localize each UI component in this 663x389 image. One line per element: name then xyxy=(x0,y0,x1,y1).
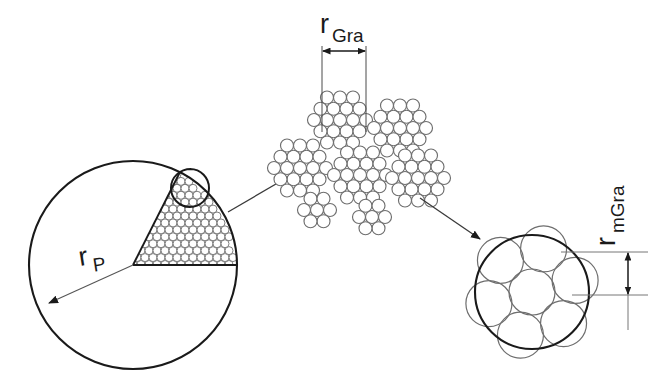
packing-circle xyxy=(129,177,137,185)
packing-circle xyxy=(129,247,137,255)
diagram-svg: r P r Gra xyxy=(0,0,663,389)
packing-circle xyxy=(129,233,137,241)
microgranule-radius-label: r mGra xyxy=(591,185,628,246)
packing-circle xyxy=(373,157,386,170)
granule-radius-base: r xyxy=(320,9,329,39)
packing-circle xyxy=(141,198,149,206)
packing-circle xyxy=(341,146,354,159)
packing-circle xyxy=(394,99,407,112)
granule-radius-subscript: Gra xyxy=(332,25,364,46)
packing-circle xyxy=(372,222,385,235)
packing-circle xyxy=(129,164,137,172)
packing-circle xyxy=(521,226,567,272)
packing-circle xyxy=(149,184,157,192)
packing-circle xyxy=(317,192,330,205)
packing-circle xyxy=(431,160,444,173)
particle-radius-label: r P xyxy=(76,238,107,278)
packing-circle xyxy=(121,247,129,255)
packing-circle xyxy=(133,198,141,206)
packing-circle xyxy=(354,146,367,159)
packing-circle xyxy=(137,164,145,172)
packing-circle xyxy=(141,184,149,192)
packing-circle xyxy=(121,164,129,172)
microgranule-radius-base: r xyxy=(591,237,621,246)
packing-circle xyxy=(145,164,153,172)
packing-circle xyxy=(121,177,129,185)
packing-circle xyxy=(149,170,157,178)
particle-radius-base: r xyxy=(76,241,90,272)
packing-circle xyxy=(129,219,137,227)
packing-circle xyxy=(157,184,165,192)
packing-circle xyxy=(145,191,153,199)
packing-circle xyxy=(153,177,161,185)
packing-circle xyxy=(133,170,141,178)
packing-circle xyxy=(509,269,555,315)
packing-circle xyxy=(165,170,173,178)
packing-circle xyxy=(125,226,133,234)
packing-circle xyxy=(294,139,307,152)
packing-circle xyxy=(125,198,133,206)
packing-circle xyxy=(121,205,129,213)
packing-circle xyxy=(133,212,141,220)
packing-circle xyxy=(125,240,133,248)
packing-circle xyxy=(137,191,145,199)
packing-circle xyxy=(359,199,372,212)
packing-circle xyxy=(372,199,385,212)
packing-circle xyxy=(133,226,141,234)
packing-circle xyxy=(129,205,137,213)
stage-microgranule: r mGra xyxy=(466,185,648,358)
packing-circle xyxy=(149,198,157,206)
packing-circle xyxy=(413,110,426,123)
packing-circle xyxy=(141,226,149,234)
microgranule-radius-subscript: mGra xyxy=(607,185,628,233)
figure-canvas: r P r Gra xyxy=(0,0,663,389)
packing-circle xyxy=(133,240,141,248)
packing-circle xyxy=(497,312,543,358)
packing-circle xyxy=(466,281,512,327)
packing-circle xyxy=(145,205,153,213)
stage-granules: r Gra xyxy=(268,9,451,235)
packing-circle xyxy=(304,192,317,205)
particle-radius-subscript: P xyxy=(91,253,107,276)
particle-radius-arrow xyxy=(49,265,133,303)
packing-circle xyxy=(137,177,145,185)
packing-circle xyxy=(137,205,145,213)
packing-circle xyxy=(121,219,129,227)
packing-circle xyxy=(281,139,294,152)
packing-circle xyxy=(552,257,598,303)
packing-circle xyxy=(412,149,425,162)
packing-circle xyxy=(334,91,347,104)
packing-circle xyxy=(129,191,137,199)
packing-circle xyxy=(141,170,149,178)
packing-circle xyxy=(121,233,129,241)
packing-circle xyxy=(145,177,153,185)
arrow-granules-to-microgranule xyxy=(420,198,480,239)
packing-circle xyxy=(121,191,129,199)
stage-particle: r P xyxy=(29,161,237,369)
packing-circle xyxy=(161,177,169,185)
packing-circle xyxy=(137,233,145,241)
packing-circle xyxy=(381,99,394,112)
packing-circle xyxy=(125,212,133,220)
packing-circle xyxy=(157,170,165,178)
packing-circle xyxy=(313,150,326,163)
granule-radius-label: r Gra xyxy=(320,9,364,46)
packing-circle xyxy=(141,212,149,220)
packing-circle xyxy=(353,102,366,115)
packing-circle xyxy=(125,254,133,262)
packing-circle xyxy=(125,184,133,192)
packing-circle xyxy=(153,191,161,199)
packing-circle xyxy=(399,149,412,162)
packing-circle xyxy=(137,219,145,227)
packing-circle xyxy=(125,170,133,178)
packing-circle xyxy=(317,215,330,228)
packing-circle xyxy=(133,184,141,192)
